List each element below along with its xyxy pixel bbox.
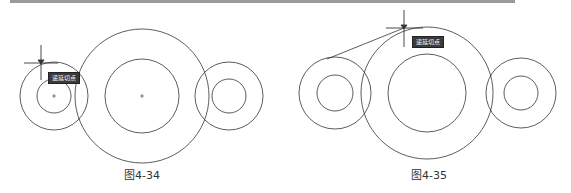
- circle-right-outer: [486, 58, 556, 128]
- circle-left-outer: [299, 57, 371, 129]
- figure-caption: 图4-34: [124, 166, 160, 182]
- figure-4-34: 递延切点 图4-34: [0, 0, 285, 193]
- circle-center-inner: [388, 54, 466, 132]
- cad-drawing-left: [0, 0, 285, 193]
- circle-right-inner: [212, 79, 246, 113]
- circle-left-inner: [317, 75, 353, 111]
- snap-tooltip: 递延切点: [412, 36, 444, 48]
- circle-right-outer: [195, 62, 263, 130]
- figure-4-35: 递延切点 图4-35: [285, 0, 571, 193]
- cad-drawing-right: [285, 0, 571, 193]
- circle-right-inner: [504, 76, 538, 110]
- tangent-rubberband-line: [327, 28, 404, 59]
- center-marks: [52, 94, 144, 98]
- snap-tooltip: 递延切点: [48, 72, 80, 84]
- figure-caption: 图4-35: [411, 166, 447, 182]
